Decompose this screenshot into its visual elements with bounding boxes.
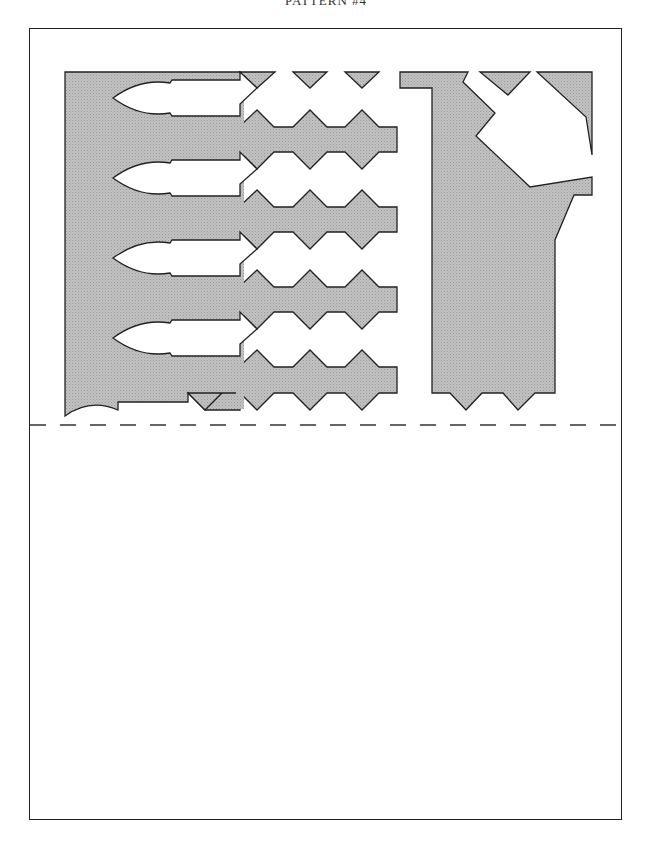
right-cutout-piece (400, 72, 592, 410)
pattern-drawing (0, 0, 652, 847)
